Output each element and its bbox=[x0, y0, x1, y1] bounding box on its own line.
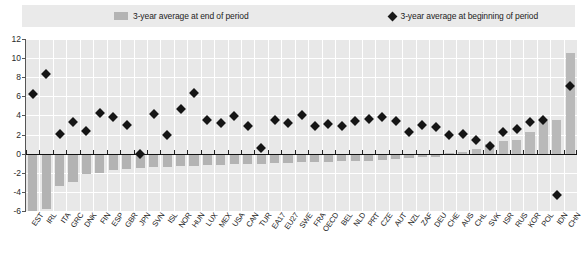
gridline-horizontal bbox=[26, 77, 577, 78]
gridline-horizontal bbox=[26, 173, 577, 174]
gridline-vertical bbox=[147, 39, 148, 211]
marker-EST bbox=[28, 89, 38, 99]
x-tick-mark bbox=[39, 150, 40, 154]
legend-bar-swatch-icon bbox=[114, 12, 128, 20]
y-tick-mark bbox=[22, 135, 26, 136]
x-tick-mark bbox=[201, 150, 202, 154]
x-tick-label-GBR: GBR bbox=[123, 211, 139, 229]
marker-USA bbox=[229, 111, 239, 121]
gridline-vertical bbox=[349, 39, 350, 211]
gridline-vertical bbox=[308, 39, 309, 211]
bar-RUS bbox=[512, 140, 521, 153]
x-tick-mark bbox=[429, 150, 430, 154]
marker-AUS bbox=[458, 129, 468, 139]
chart-legend: 3-year average at end of period 3-year a… bbox=[22, 5, 575, 27]
x-tick-label-MEX: MEX bbox=[217, 211, 233, 229]
gridline-vertical bbox=[496, 39, 497, 211]
bar-IDN bbox=[552, 120, 561, 153]
x-tick-mark bbox=[214, 150, 215, 154]
gridline-vertical bbox=[39, 39, 40, 211]
y-tick-label: 12 bbox=[12, 34, 21, 44]
marker-GRC bbox=[68, 117, 78, 127]
gridline-vertical bbox=[550, 39, 551, 211]
marker-NLD bbox=[350, 116, 360, 126]
y-tick-label: 4 bbox=[16, 110, 21, 120]
gridline-vertical bbox=[295, 39, 296, 211]
marker-CZE bbox=[377, 112, 387, 122]
gridline-vertical bbox=[107, 39, 108, 211]
x-tick-label-SVK: SVK bbox=[486, 211, 502, 228]
y-tick-mark bbox=[22, 154, 26, 155]
legend-entry-marker: 3-year average at beginning of period bbox=[389, 11, 539, 21]
marker-GBR bbox=[122, 120, 132, 130]
x-tick-mark bbox=[483, 150, 484, 154]
x-tick-mark bbox=[416, 150, 417, 154]
gridline-vertical bbox=[80, 39, 81, 211]
marker-RUS bbox=[512, 124, 522, 134]
x-tick-mark bbox=[93, 150, 94, 154]
gridline-vertical bbox=[174, 39, 175, 211]
chart-root: 3-year average at end of period 3-year a… bbox=[0, 0, 587, 257]
y-axis-labels: 121086420-2-4-6 bbox=[0, 33, 24, 215]
x-tick-mark bbox=[443, 150, 444, 154]
x-tick-mark bbox=[228, 150, 229, 154]
gridline-vertical bbox=[510, 39, 511, 211]
marker-EA17 bbox=[270, 115, 280, 125]
bar-HUN bbox=[189, 154, 198, 166]
gridline-vertical bbox=[187, 39, 188, 211]
x-tick-label-ESP: ESP bbox=[110, 211, 126, 228]
bar-CHN bbox=[566, 53, 575, 153]
marker-ESP bbox=[108, 112, 118, 122]
x-tick-mark bbox=[322, 150, 323, 154]
gridline-horizontal bbox=[26, 96, 577, 97]
x-tick-mark bbox=[550, 150, 551, 154]
x-tick-mark bbox=[66, 150, 67, 154]
bar-ISL bbox=[163, 154, 172, 167]
legend-bar-label: 3-year average at end of period bbox=[133, 11, 249, 21]
x-tick-mark bbox=[375, 150, 376, 154]
x-tick-mark bbox=[349, 150, 350, 154]
marker-KOR bbox=[525, 117, 535, 127]
x-axis-labels: ESTIRLITAGRCDNKFINESPGBRJPNSVNISLNORHUNL… bbox=[26, 211, 577, 257]
x-tick-label-LUX: LUX bbox=[204, 211, 220, 228]
gridline-vertical bbox=[214, 39, 215, 211]
x-tick-label-JPN: JPN bbox=[137, 211, 152, 227]
gridline-vertical bbox=[228, 39, 229, 211]
gridline-vertical bbox=[66, 39, 67, 211]
gridline-vertical bbox=[201, 39, 202, 211]
x-tick-label-CHL: CHL bbox=[473, 211, 489, 228]
y-tick-mark bbox=[22, 115, 26, 116]
x-tick-label-CAN: CAN bbox=[244, 211, 260, 229]
y-tick-label: -6 bbox=[13, 206, 21, 216]
gridline-vertical bbox=[375, 39, 376, 211]
x-tick-mark bbox=[254, 150, 255, 154]
x-tick-mark bbox=[107, 150, 108, 154]
x-tick-mark bbox=[174, 150, 175, 154]
x-tick-label-SVN: SVN bbox=[150, 211, 166, 228]
x-tick-mark bbox=[496, 150, 497, 154]
x-tick-label-PRT: PRT bbox=[365, 211, 381, 228]
x-tick-label-HUN: HUN bbox=[190, 211, 206, 229]
bar-IRL bbox=[42, 154, 51, 209]
marker-OECD bbox=[323, 119, 333, 129]
x-tick-label-AUT: AUT bbox=[392, 211, 408, 228]
marker-LUX bbox=[202, 115, 212, 125]
x-tick-mark bbox=[80, 150, 81, 154]
y-tick-mark bbox=[22, 211, 26, 212]
gridline-horizontal bbox=[26, 58, 577, 59]
x-tick-mark bbox=[187, 150, 188, 154]
bar-LUX bbox=[203, 154, 212, 165]
marker-EU27 bbox=[283, 118, 293, 128]
gridline-vertical bbox=[483, 39, 484, 211]
x-tick-label-CHN: CHN bbox=[566, 211, 582, 229]
plot-wrapper: 121086420-2-4-6 ESTIRLITAGRCDNKFINESPGBR… bbox=[0, 33, 587, 257]
marker-ISL bbox=[162, 130, 172, 140]
gridline-vertical bbox=[469, 39, 470, 211]
x-tick-mark bbox=[576, 150, 577, 154]
x-tick-mark bbox=[362, 150, 363, 154]
marker-CHE bbox=[444, 130, 454, 140]
marker-AUT bbox=[391, 116, 401, 126]
bar-NOR bbox=[176, 154, 185, 166]
x-tick-mark bbox=[147, 150, 148, 154]
x-tick-label-IRL: IRL bbox=[45, 211, 59, 225]
